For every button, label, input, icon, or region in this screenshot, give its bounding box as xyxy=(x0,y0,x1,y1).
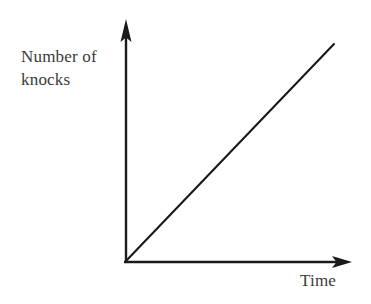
y-axis-label: Number of knocks xyxy=(21,45,97,91)
x-axis-label: Time xyxy=(300,269,336,292)
data-line-series-1 xyxy=(125,44,334,262)
y-axis-label-line1: Number of xyxy=(21,47,97,66)
diagram-canvas: Number of knocks Time xyxy=(0,0,371,304)
y-axis-label-line2: knocks xyxy=(21,68,97,91)
